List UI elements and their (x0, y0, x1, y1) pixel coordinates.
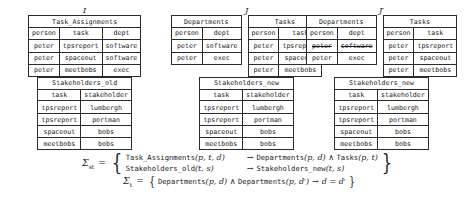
instance-group-J: J Departments person dept peter software… (171, 6, 322, 150)
table-row: tpsreport lumbergh (200, 101, 293, 114)
group-label-I: I (28, 6, 141, 15)
table-row: spaceout bobs (38, 126, 131, 138)
cell: peter (383, 64, 414, 76)
implies-arrow: → (309, 176, 322, 187)
table-row: tpsreport portman (200, 114, 293, 126)
dependency-lhs: Stakeholders_old(t, s) (126, 163, 244, 174)
table-task-assignments: Task_Assignments person task dept peter … (28, 15, 141, 77)
cell: bobs (243, 126, 294, 138)
relation-name: Tasks (383, 16, 457, 28)
cell: bobs (243, 138, 294, 150)
table-row: peter exec (172, 52, 242, 64)
dependency-rhs-2: Tasks(p, t) (336, 152, 377, 163)
dependency-list-st: Task_Assignments(p, t, d) → Departments(… (124, 152, 380, 174)
relation-name: Stakeholders_new (335, 77, 428, 89)
table-row: peter tpsreport software (29, 39, 141, 52)
cell: bobs (81, 138, 132, 150)
table-departments: Departments person dept peter software p… (171, 15, 242, 65)
table-header-row: person dept (172, 28, 242, 40)
table-header-row: task stakeholder (335, 89, 428, 101)
cell: meetbobs (59, 64, 102, 76)
table-header-row: person dept (307, 28, 377, 40)
column-header: person (172, 28, 203, 40)
equals-sign: = (132, 176, 148, 186)
conjunction-symbol: ∧ (227, 176, 238, 187)
column-header: task (59, 28, 102, 40)
table-row-deleted: peter software (307, 39, 377, 52)
table-stakeholders-new: Stakeholders_new task stakeholder tpsrep… (334, 77, 428, 151)
group-label-J: J (171, 6, 322, 15)
table-stakeholders-new: Stakeholders_new task stakeholder tpsrep… (199, 77, 293, 151)
cell: bobs (378, 138, 429, 150)
column-header: task (335, 89, 378, 101)
relation-name: Departments (172, 16, 242, 28)
table-row: meetbobs bobs (38, 138, 131, 150)
dependency-rhs-1: Stakeholders_new(t, s) (256, 163, 344, 174)
dependency-rhs-1: Departments(p, d) (256, 152, 325, 163)
cell: bobs (378, 126, 429, 138)
cell: lumbergh (81, 101, 132, 114)
relation-name: Stakeholders_old (38, 77, 131, 89)
left-brace: { (111, 155, 122, 170)
table-header-row: task stakeholder (38, 89, 131, 101)
cell: exec (102, 64, 141, 76)
cell-struck: software (337, 39, 376, 52)
table-row: meetbobs bobs (335, 138, 428, 150)
cell: software (202, 39, 241, 52)
cell: spaceout (335, 126, 378, 138)
table-row: peter meetbobs (383, 64, 457, 76)
left-brace: { (149, 177, 155, 186)
cell: tpsreport (414, 39, 457, 52)
cell: meetbobs (335, 138, 378, 150)
column-header: dept (102, 28, 141, 40)
column-header: task (38, 89, 81, 101)
table-row: peter exec (307, 52, 377, 64)
cell: exec (337, 52, 376, 64)
dependency-lhs: Task_Assignments(p, t, d) (126, 152, 244, 163)
table-row: tpsreport portman (38, 114, 131, 126)
cell: peter (307, 52, 338, 64)
group-J-prime-bottom-table-wrap: Stakeholders_new task stakeholder tpsrep… (306, 77, 457, 151)
instance-group-I: I Task_Assignments person task dept pete… (28, 6, 141, 150)
cell: lumbergh (378, 101, 429, 114)
column-header: stakeholder (243, 89, 294, 101)
dependency-1: Task_Assignments(p, t, d) → Departments(… (126, 152, 378, 163)
cell: peter (172, 52, 203, 64)
table-row: peter spaceout software (29, 52, 141, 64)
column-header: person (29, 28, 60, 40)
cell: bobs (81, 126, 132, 138)
cell: peter (248, 52, 279, 64)
cell: meetbobs (200, 138, 243, 150)
group-J-bottom-table-wrap: Stakeholders_new task stakeholder tpsrep… (171, 77, 322, 151)
group-J-top-tables: Departments person dept peter software p… (171, 15, 322, 77)
relation-name: Task_Assignments (29, 16, 141, 28)
formula-sigma-t: Σt = { Departments(p, d) ∧ Departments(p… (108, 175, 356, 188)
table-row: peter tpsreport (383, 39, 457, 52)
relation-name: Departments (307, 16, 377, 28)
cell: tpsreport (200, 114, 243, 126)
equals-sign: = (94, 158, 110, 168)
dependency-rhs-equality: d = d′ (322, 176, 346, 187)
group-J-prime-top-tables: Departments person dept peter software p… (306, 15, 457, 77)
table-row: peter meetbobs exec (29, 64, 141, 76)
cell: lumbergh (243, 101, 294, 114)
table-row: peter software (172, 39, 242, 52)
cell: software (102, 39, 141, 52)
group-label-J-prime: J′ (306, 6, 457, 15)
dependency-2: Stakeholders_old(t, s) → Stakeholders_ne… (126, 163, 378, 174)
cell: tpsreport (335, 114, 378, 126)
column-header: dept (337, 28, 376, 40)
dependency-lhs-2: Departments(p, d′) (238, 176, 309, 187)
dependency-list-t: Departments(p, d) ∧ Departments(p, d′) →… (156, 176, 348, 187)
dependency-1: Departments(p, d) ∧ Departments(p, d′) →… (158, 176, 346, 187)
cell: peter (172, 39, 203, 52)
cell: tpsreport (38, 101, 81, 114)
cell: peter (248, 64, 279, 76)
cell: portman (378, 114, 429, 126)
table-row: tpsreport lumbergh (38, 101, 131, 114)
formula-block: Σst = { Task_Assignments(p, t, d) → Depa… (0, 152, 464, 188)
table-row: tpsreport portman (335, 114, 428, 126)
cell: tpsreport (38, 114, 81, 126)
table-header-row: person task dept (29, 28, 141, 40)
cell: portman (243, 114, 294, 126)
